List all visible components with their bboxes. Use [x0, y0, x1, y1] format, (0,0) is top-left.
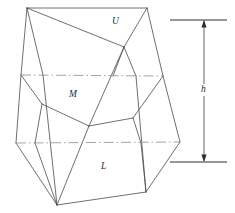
- lower-section-dashed-line: [16, 142, 180, 143]
- edge-lower-right-silhouette: [146, 142, 180, 192]
- edge-middle-inner-zigzag-up: [89, 118, 133, 126]
- edge-bottomright-to-lower-inner-right: [141, 143, 146, 192]
- upper-section-dashed-line: [21, 75, 163, 76]
- edge-bottom-to-middle-low: [57, 126, 89, 205]
- middle-zone-edges: [16, 75, 180, 143]
- label-upper-zone: U: [112, 17, 119, 27]
- figure-container: U M L h: [0, 0, 235, 213]
- edge-apex-to-upper-mid-right: [124, 47, 136, 76]
- edge-middle-inner-left-down: [35, 104, 42, 143]
- edge-bottom-face: [57, 192, 146, 205]
- top-face-edge-right-apex: [124, 8, 147, 47]
- edge-middle-left-silhouette: [16, 75, 21, 143]
- dimension-arrowhead-top: [201, 20, 206, 28]
- label-middle-zone: M: [69, 90, 77, 100]
- edge-middle-inner-zigzag-down: [42, 104, 89, 126]
- upper-zone-edges: [21, 8, 163, 76]
- through-edges: [43, 47, 146, 205]
- edge-topleft-to-upper-inner: [27, 8, 43, 75]
- edge-apex-to-middle-low: [89, 47, 124, 126]
- height-dimension-group: [170, 20, 227, 162]
- edge-lower-left-silhouette: [16, 143, 57, 205]
- edge-topleft-to-upper-left: [21, 8, 27, 75]
- edge-topright-to-upper-right: [147, 8, 163, 76]
- edge-middle-inner-left: [21, 75, 42, 104]
- label-height-dimension: h: [200, 84, 207, 96]
- edge-middle-right-silhouette: [163, 76, 180, 142]
- label-lower-zone: L: [101, 162, 106, 172]
- polyhedron-diagram: [0, 0, 235, 213]
- dimension-arrowhead-bottom: [201, 155, 206, 163]
- lower-zone-edges: [16, 126, 180, 205]
- section-lines: [16, 75, 180, 143]
- top-face-edge-left-apex: [27, 8, 124, 47]
